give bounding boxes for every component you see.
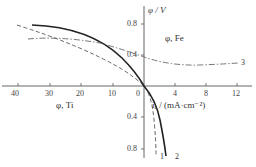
x-axis-label: iₐ / (mA·cm⁻²) xyxy=(152,101,205,110)
x-tick-8: 8 xyxy=(204,90,208,98)
x-tick-40: 40 xyxy=(11,90,19,98)
x-tick-20: 20 xyxy=(76,90,84,98)
x-tick-10: 10 xyxy=(108,90,116,98)
series-label-1: 1 xyxy=(160,153,164,161)
x-tick-12: 12 xyxy=(232,90,240,98)
y-tick-0.4-up: 0.4 xyxy=(127,51,137,59)
y-tick-0.8-up: 0.8 xyxy=(127,20,137,28)
series-label-2: 2 xyxy=(175,153,179,161)
series-label-3: 3 xyxy=(241,59,245,67)
x-tick-0: 0 xyxy=(136,90,140,98)
y-tick-0.4-down: 0.4 xyxy=(127,113,137,121)
y-axis-label: φ / V xyxy=(148,6,165,15)
x-tick-30: 30 xyxy=(45,90,53,98)
y-tick-0.8-down: 0.8 xyxy=(127,145,137,153)
annotation-ti: φ, Ti xyxy=(56,101,73,110)
annotation-fe: φ, Fe xyxy=(165,34,184,43)
x-tick-4: 4 xyxy=(173,90,177,98)
